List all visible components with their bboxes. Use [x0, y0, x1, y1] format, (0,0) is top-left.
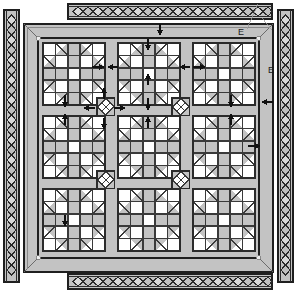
star-block-r3c2 [118, 189, 180, 251]
star-block-r3c3 [193, 189, 255, 251]
star-block-r2c3 [193, 116, 255, 178]
sashing-diamond-4 [172, 171, 190, 189]
figure-caption [196, 286, 294, 293]
star-block-r1c2 [118, 43, 180, 105]
border-strip-top [68, 4, 272, 19]
star-block-r1c1 [43, 43, 105, 105]
sashing-diamond-3 [97, 171, 115, 189]
star-block-r2c1 [43, 116, 105, 178]
border-strip-left [4, 10, 19, 282]
star-block-r3c1 [43, 189, 105, 251]
border-strip-right [278, 10, 293, 282]
label-border-right-E: E [268, 66, 274, 75]
label-border-top-E: E [238, 28, 244, 37]
star-block-r1c3 [193, 43, 255, 105]
star-block-r2c2 [118, 116, 180, 178]
quilt-diagram-canvas [0, 0, 297, 293]
sashing-diamond-2 [172, 98, 190, 116]
sashing-diamond-1 [97, 98, 115, 116]
